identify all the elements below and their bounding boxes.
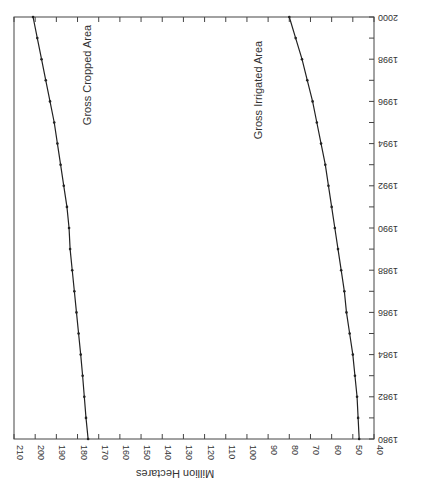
year-tick-label: 1982 [378, 392, 398, 402]
year-tick-label: 1994 [378, 139, 398, 149]
data-point [87, 438, 90, 441]
data-point [356, 396, 359, 399]
data-point [340, 269, 343, 272]
year-tick-label: 1980 [378, 435, 398, 445]
value-tick-label: 160 [121, 445, 131, 460]
value-tick-label: 60 [333, 445, 343, 455]
data-point [44, 79, 47, 82]
label-gross-irrigated-area: Gross Irrigated Area [252, 40, 264, 139]
value-tick-label: 150 [142, 445, 152, 460]
data-point [56, 142, 59, 145]
data-point [59, 163, 62, 166]
data-point [85, 417, 88, 420]
year-tick-label: 1984 [378, 350, 398, 360]
data-point [32, 16, 35, 19]
year-tick-label: 1996 [378, 97, 398, 107]
data-point [40, 58, 43, 61]
data-point [352, 353, 355, 356]
value-tick-label: 100 [248, 445, 258, 460]
value-tick-label: 210 [15, 445, 25, 460]
data-point [327, 185, 330, 188]
data-point [357, 417, 360, 420]
data-point [324, 163, 327, 166]
data-point [320, 142, 323, 145]
series-line-0 [33, 17, 88, 439]
value-tick-label: 200 [36, 445, 46, 460]
data-point [77, 332, 80, 335]
axis-title-million-hectares: Million Hectares [135, 468, 214, 480]
value-tick-label: 80 [290, 445, 300, 455]
data-point [83, 396, 86, 399]
data-point [81, 374, 84, 377]
data-point [53, 121, 56, 124]
data-point [75, 311, 78, 314]
value-tick-label: 40 [375, 445, 385, 455]
value-tick-label: 50 [354, 445, 364, 455]
data-point [288, 16, 291, 19]
data-point [311, 100, 314, 103]
value-tick-label: 140 [163, 445, 173, 460]
data-point [348, 332, 351, 335]
year-tick-label: 1986 [378, 308, 398, 318]
data-point [343, 290, 346, 293]
year-tick-label: 1992 [378, 181, 398, 191]
data-point [330, 206, 333, 209]
year-axis: 1980198219841986198819901992199419961998… [369, 13, 398, 445]
data-point [354, 374, 357, 377]
value-tick-label: 120 [206, 445, 216, 460]
data-point [71, 269, 74, 272]
data-point [345, 311, 348, 314]
data-point [66, 206, 69, 209]
data-point [306, 79, 309, 82]
data-point [62, 185, 65, 188]
year-tick-label: 1998 [378, 55, 398, 65]
value-tick-label: 190 [57, 445, 67, 460]
year-tick-label: 1990 [378, 224, 398, 234]
chart-canvas: 1980198219841986198819901992199419961998… [0, 0, 425, 481]
data-point [49, 100, 52, 103]
series-line-1 [289, 17, 359, 439]
label-gross-cropped-area: Gross Cropped Area [81, 24, 93, 125]
value-tick-label: 90 [269, 445, 279, 455]
value-tick-label: 70 [311, 445, 321, 455]
year-tick-label: 2000 [378, 13, 398, 23]
data-point [316, 121, 319, 124]
data-point [337, 248, 340, 251]
series-labels: Gross Cropped AreaGross Irrigated Area [81, 24, 264, 139]
value-tick-label: 170 [100, 445, 110, 460]
data-point [36, 37, 39, 40]
value-tick-label: 130 [184, 445, 194, 460]
value-tick-label: 180 [79, 445, 89, 460]
data-point [358, 438, 361, 441]
year-tick-label: 1988 [378, 266, 398, 276]
rotated-line-chart: 1980198219841986198819901992199419961998… [0, 0, 425, 481]
data-point [69, 248, 72, 251]
data-point [301, 58, 304, 61]
data-point [79, 353, 82, 356]
value-tick-label: 110 [227, 445, 237, 459]
data-point [294, 37, 297, 40]
data-point [68, 227, 71, 230]
data-point [334, 227, 337, 230]
data-point [73, 290, 76, 293]
